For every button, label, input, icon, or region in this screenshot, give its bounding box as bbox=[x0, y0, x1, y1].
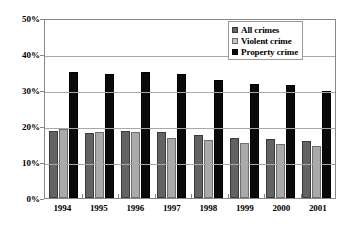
bar-chart: 0%10%20%30%40%50% 1994199519961997199819… bbox=[0, 0, 348, 238]
x-axis-tick-mark bbox=[228, 194, 229, 198]
legend-item-label: Violent crime bbox=[241, 36, 292, 46]
x-axis-tick-mark bbox=[264, 194, 265, 198]
bar bbox=[250, 84, 259, 198]
legend-item[interactable]: Violent crime bbox=[232, 35, 298, 46]
x-axis-tick-label: 1997 bbox=[154, 203, 191, 221]
bar-group bbox=[299, 20, 335, 198]
y-axis-tick-mark bbox=[40, 55, 44, 56]
x-axis-tick-label: 1995 bbox=[81, 203, 118, 221]
bar bbox=[286, 85, 295, 198]
legend-item[interactable]: Property crime bbox=[232, 46, 298, 57]
y-axis-tick-label: 20% bbox=[0, 122, 40, 132]
bar bbox=[131, 132, 140, 198]
y-axis-tick-label: 50% bbox=[0, 14, 40, 24]
legend-swatch-icon bbox=[232, 49, 238, 55]
gridline bbox=[45, 164, 335, 165]
bar bbox=[157, 132, 166, 198]
bar-group bbox=[81, 20, 117, 198]
y-axis-tick-label: 0% bbox=[0, 194, 40, 204]
y-axis-tick-mark bbox=[40, 91, 44, 92]
bar bbox=[240, 143, 249, 198]
bar bbox=[266, 139, 275, 198]
bar bbox=[69, 72, 78, 198]
gridline bbox=[45, 92, 335, 93]
legend-swatch-icon bbox=[232, 38, 238, 44]
legend-item[interactable]: All crimes bbox=[232, 24, 298, 35]
bar bbox=[141, 72, 150, 198]
bar-group bbox=[190, 20, 226, 198]
x-axis-tick-label: 1998 bbox=[190, 203, 227, 221]
bar bbox=[194, 135, 203, 198]
x-axis-tick-mark bbox=[155, 194, 156, 198]
y-axis: 0%10%20%30%40%50% bbox=[0, 19, 40, 199]
y-axis-tick-mark bbox=[40, 19, 44, 20]
bar bbox=[230, 138, 239, 198]
x-axis-tick-label: 2001 bbox=[300, 203, 337, 221]
bar bbox=[95, 132, 104, 198]
y-axis-tick-mark bbox=[40, 163, 44, 164]
bar bbox=[85, 133, 94, 198]
bar bbox=[322, 91, 331, 198]
x-axis-tick-label: 1994 bbox=[44, 203, 81, 221]
bar-group bbox=[45, 20, 81, 198]
bar bbox=[167, 138, 176, 198]
x-axis-tick-mark bbox=[191, 194, 192, 198]
bar bbox=[214, 80, 223, 198]
legend-item-label: All crimes bbox=[241, 25, 279, 35]
y-axis-tick-label: 40% bbox=[0, 50, 40, 60]
legend-swatch-icon bbox=[232, 27, 238, 33]
x-axis: 19941995199619971998199920002001 bbox=[44, 203, 336, 221]
bar bbox=[302, 141, 311, 198]
bar-group bbox=[118, 20, 154, 198]
x-axis-tick-mark bbox=[82, 194, 83, 198]
x-axis-tick-mark bbox=[118, 194, 119, 198]
bar bbox=[204, 140, 213, 198]
y-axis-tick-mark bbox=[40, 127, 44, 128]
bar bbox=[276, 144, 285, 198]
x-axis-tick-label: 1996 bbox=[117, 203, 154, 221]
chart-legend: All crimesViolent crimeProperty crime bbox=[228, 21, 303, 60]
legend-item-label: Property crime bbox=[241, 47, 298, 57]
x-axis-tick-mark bbox=[301, 194, 302, 198]
x-axis-tick-label: 2000 bbox=[263, 203, 300, 221]
bar bbox=[312, 146, 321, 198]
gridline bbox=[45, 128, 335, 129]
bar-group bbox=[154, 20, 190, 198]
y-axis-tick-label: 10% bbox=[0, 158, 40, 168]
y-axis-tick-label: 30% bbox=[0, 86, 40, 96]
y-axis-tick-mark bbox=[40, 199, 44, 200]
x-axis-tick-label: 1999 bbox=[227, 203, 264, 221]
